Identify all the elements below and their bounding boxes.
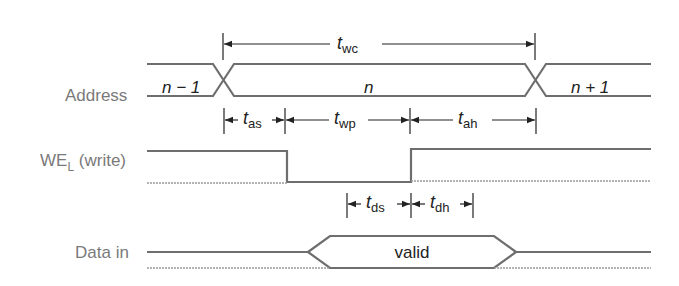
t-wp-label: twp — [334, 108, 356, 131]
address-signal: Address n − 1 n n + 1 — [65, 64, 651, 105]
t-wc-label: twc — [337, 33, 358, 56]
write-enable-waveform — [147, 149, 651, 182]
t-as-wp-ah-annotation: tas twp tah — [224, 108, 536, 134]
write-enable-label: WEL (write) — [40, 151, 126, 174]
t-as-label: tas — [243, 108, 262, 131]
address-value-current: n — [364, 78, 373, 97]
t-ah-label: tah — [458, 108, 477, 131]
t-ds-dh-annotation: tds tdh — [347, 192, 473, 218]
t-ds-label: tds — [366, 192, 385, 215]
write-enable-signal: WEL (write) — [40, 149, 651, 183]
t-dh-label: tdh — [430, 192, 449, 215]
address-value-prev: n − 1 — [162, 78, 200, 97]
t-wc-annotation: twc — [223, 33, 535, 60]
write-cycle-timing-diagram: twc Address n − 1 n n + 1 tas twp tah WE… — [0, 0, 679, 286]
address-value-next: n + 1 — [571, 78, 609, 97]
data-in-valid-label: valid — [395, 243, 430, 262]
data-in-signal: Data in valid — [75, 236, 651, 268]
data-in-label: Data in — [75, 243, 129, 262]
address-label: Address — [65, 86, 127, 105]
